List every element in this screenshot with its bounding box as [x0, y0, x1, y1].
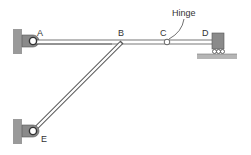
label-c: C [160, 28, 167, 38]
pin-e-icon [29, 127, 36, 134]
label-hinge: Hinge [172, 8, 196, 18]
wall-a [13, 29, 22, 54]
frame-diagram: A B C D E Hinge [0, 0, 251, 155]
roller-2-icon [217, 50, 221, 54]
member-eb-inner [33, 43, 121, 131]
wall-e [13, 119, 22, 144]
roller-block-d [212, 33, 224, 49]
label-b: B [118, 28, 124, 38]
roller-1-icon [213, 50, 217, 54]
label-a: A [37, 28, 43, 38]
label-e: E [41, 134, 47, 144]
hinge-c-icon [164, 39, 170, 45]
hinge-leader [169, 19, 184, 39]
roller-3-icon [221, 50, 225, 54]
ground-d [197, 54, 237, 59]
pin-a-icon [29, 37, 36, 44]
label-d: D [202, 28, 209, 38]
